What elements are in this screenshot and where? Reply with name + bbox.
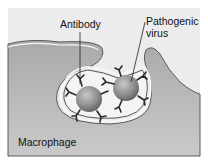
- phagocytosis-diagram: Antibody Pathogenic virus Macrophage: [0, 0, 208, 164]
- antibody-label: Antibody: [60, 19, 101, 30]
- virus-right: [113, 75, 139, 101]
- pathogenic-virus-label-line1: Pathogenic: [146, 16, 199, 27]
- macrophage-label: Macrophage: [18, 137, 76, 148]
- pathogenic-virus-label-line2: virus: [146, 28, 168, 39]
- virus-left: [76, 86, 102, 112]
